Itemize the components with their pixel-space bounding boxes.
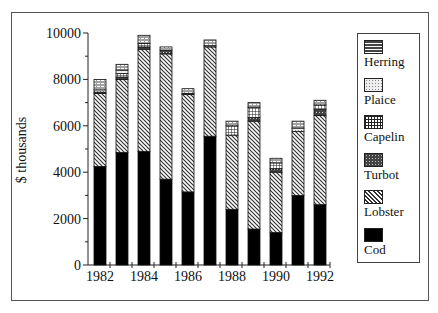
bar-1984 (138, 35, 150, 265)
bar-segment-turbot (314, 110, 326, 116)
legend-item-lobster: Lobster (364, 190, 420, 219)
y-tick-label: 8000 (53, 72, 81, 87)
bar-segment-cod (292, 195, 304, 265)
legend-label: Herring (364, 55, 420, 69)
legend-item-herring: Herring (364, 40, 420, 69)
legend-swatch (364, 78, 383, 92)
bar-segment-plaice (292, 128, 304, 131)
bar-segment-herring (94, 79, 106, 89)
bar-segment-cod (248, 229, 260, 265)
bar-segment-herring (138, 35, 150, 43)
y-tick-label: 4000 (53, 165, 81, 180)
bar-segment-cod (160, 179, 172, 265)
bar-1985 (160, 47, 172, 265)
legend: HerringPlaiceCapelinTurbotLobsterCod (357, 33, 420, 263)
bar-segment-cod (204, 136, 216, 265)
legend-item-cod: Cod (364, 228, 420, 257)
bar-segment-cod (116, 152, 128, 265)
bar-1989 (248, 103, 260, 265)
x-tick-label: 1982 (86, 269, 114, 284)
bar-1992 (314, 100, 326, 265)
bar-segment-lobster (138, 49, 150, 151)
legend-swatch (364, 153, 383, 167)
bar-segment-herring (204, 40, 216, 46)
bar-segment-herring (182, 89, 194, 94)
bar-segment-herring (226, 121, 238, 126)
bar-segment-turbot (270, 169, 282, 172)
x-tick-label: 1992 (306, 269, 334, 284)
legend-swatch (364, 190, 383, 204)
bar-segment-herring (314, 100, 326, 105)
bar-segment-lobster (160, 54, 172, 179)
bar-segment-herring (248, 103, 260, 108)
bar-segment-herring (292, 121, 304, 128)
bar-segment-lobster (270, 172, 282, 232)
bar-segment-cod (226, 209, 238, 265)
x-tick-label: 1988 (218, 269, 246, 284)
bar-1991 (292, 121, 304, 265)
bar-segment-lobster (314, 115, 326, 204)
y-tick-label: 2000 (53, 212, 81, 227)
legend-swatch (364, 40, 383, 54)
bar-segment-capelin (248, 107, 260, 117)
bar-segment-lobster (204, 47, 216, 136)
y-tick-label: 10000 (46, 26, 81, 41)
x-tick-label: 1990 (262, 269, 290, 284)
bar-segment-capelin (116, 74, 128, 77)
legend-swatch (364, 115, 383, 129)
legend-label: Cod (364, 243, 420, 257)
y-tick-label: 0 (74, 258, 81, 273)
bar-segment-capelin (226, 126, 238, 135)
bar-segment-capelin (314, 105, 326, 110)
bar-1988 (226, 121, 238, 265)
bar-1987 (204, 40, 216, 265)
bar-1990 (270, 158, 282, 265)
bar-segment-herring (270, 158, 282, 163)
bar-segment-turbot (160, 50, 172, 53)
bar-segment-cod (270, 233, 282, 265)
x-tick-label: 1986 (174, 269, 202, 284)
legend-label: Capelin (364, 130, 420, 144)
bar-1983 (116, 64, 128, 265)
bar-segment-lobster (292, 132, 304, 196)
bar-segment-lobster (182, 94, 194, 191)
bar-segment-lobster (94, 93, 106, 166)
bar-segment-herring (116, 64, 128, 70)
bar-segment-herring (160, 47, 172, 50)
legend-item-capelin: Capelin (364, 115, 420, 144)
legend-swatch (364, 228, 383, 242)
bar-1986 (182, 89, 194, 265)
bar-segment-cod (138, 151, 150, 265)
bars (94, 35, 326, 265)
bar-segment-lobster (248, 121, 260, 229)
legend-label: Plaice (364, 93, 420, 107)
bar-segment-capelin (270, 163, 282, 169)
legend-label: Turbot (364, 168, 420, 182)
bar-segment-lobster (116, 79, 128, 152)
bar-segment-turbot (248, 118, 260, 121)
legend-item-turbot: Turbot (364, 153, 420, 182)
y-tick-label: 6000 (53, 119, 81, 134)
y-axis-label: $ thousands (14, 117, 30, 184)
legend-item-plaice: Plaice (364, 78, 420, 107)
bar-segment-lobster (226, 135, 238, 209)
bar-segment-plaice (116, 70, 128, 73)
bar-segment-capelin (138, 43, 150, 46)
bar-segment-cod (314, 205, 326, 265)
bar-segment-cod (94, 166, 106, 265)
legend-label: Lobster (364, 205, 420, 219)
x-tick-label: 1984 (130, 269, 158, 284)
bar-1982 (94, 79, 106, 265)
bar-segment-cod (182, 192, 194, 265)
